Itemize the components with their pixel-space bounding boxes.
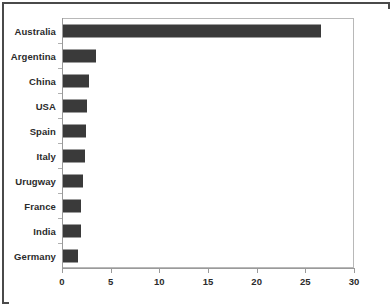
y-axis-tick bbox=[58, 118, 62, 119]
bar-row: China bbox=[0, 68, 392, 93]
x-axis-tick-label: 0 bbox=[59, 276, 64, 287]
bar bbox=[63, 99, 87, 112]
bar bbox=[63, 149, 85, 162]
chart-figure: AustraliaArgentinaChinaUSASpainItalyUrug… bbox=[0, 0, 392, 306]
x-axis-tick bbox=[305, 268, 306, 273]
y-axis-tick bbox=[58, 243, 62, 244]
bar-row: Australia bbox=[0, 18, 392, 43]
x-axis-ticks bbox=[0, 268, 392, 274]
x-axis-tick bbox=[111, 268, 112, 273]
bar-row: India bbox=[0, 218, 392, 243]
y-axis-tick bbox=[58, 193, 62, 194]
bar-row: USA bbox=[0, 93, 392, 118]
bar bbox=[63, 74, 89, 87]
y-axis-tick bbox=[58, 93, 62, 94]
bar bbox=[63, 199, 81, 212]
bar bbox=[63, 24, 321, 37]
x-axis-tick-labels: 051015202530 bbox=[0, 276, 392, 292]
category-label: USA bbox=[0, 100, 56, 111]
x-axis-tick-label: 5 bbox=[108, 276, 113, 287]
x-axis-tick bbox=[159, 268, 160, 273]
x-axis-tick-label: 20 bbox=[251, 276, 262, 287]
bar bbox=[63, 249, 78, 262]
x-axis-tick-label: 25 bbox=[300, 276, 311, 287]
category-label: China bbox=[0, 75, 56, 86]
bar-row: Germany bbox=[0, 243, 392, 268]
y-axis-tick bbox=[58, 68, 62, 69]
x-axis-tick-label: 15 bbox=[203, 276, 214, 287]
bar-row: Urugway bbox=[0, 168, 392, 193]
bar bbox=[63, 224, 81, 237]
x-axis-tick bbox=[62, 268, 63, 273]
category-label: India bbox=[0, 225, 56, 236]
x-axis-tick-label: 30 bbox=[349, 276, 360, 287]
y-axis-tick bbox=[58, 168, 62, 169]
y-axis-tick bbox=[58, 43, 62, 44]
bar bbox=[63, 124, 86, 137]
category-label: Australia bbox=[0, 25, 56, 36]
bar-row: France bbox=[0, 193, 392, 218]
x-axis-tick bbox=[208, 268, 209, 273]
y-axis-tick bbox=[58, 143, 62, 144]
bar-row: Italy bbox=[0, 143, 392, 168]
category-label: Spain bbox=[0, 125, 56, 136]
bar-row: Spain bbox=[0, 118, 392, 143]
category-label: Urugway bbox=[0, 175, 56, 186]
bar-row: Argentina bbox=[0, 43, 392, 68]
category-label: Argentina bbox=[0, 50, 56, 61]
bar bbox=[63, 49, 96, 62]
bar bbox=[63, 174, 83, 187]
category-label: France bbox=[0, 200, 56, 211]
y-axis-tick bbox=[58, 218, 62, 219]
category-label: Germany bbox=[0, 250, 56, 261]
category-label: Italy bbox=[0, 150, 56, 161]
x-axis-tick bbox=[354, 268, 355, 273]
x-axis-tick-label: 10 bbox=[154, 276, 165, 287]
x-axis-tick bbox=[257, 268, 258, 273]
